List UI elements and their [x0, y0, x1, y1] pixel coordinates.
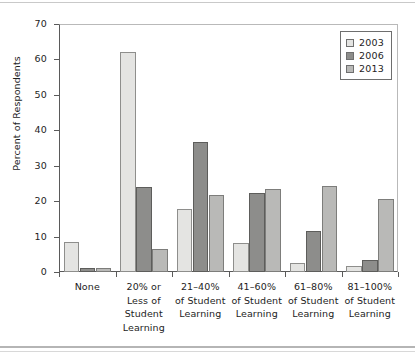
x-axis-label-line: of Student — [168, 294, 233, 308]
bottom-divider-rule — [0, 346, 415, 348]
x-axis-label-line: 20% or — [112, 280, 177, 294]
y-axis-tick-label: 20 — [35, 194, 48, 207]
x-axis-tick-mark — [229, 272, 230, 277]
bar-2006 — [193, 142, 209, 272]
x-axis-label-line: of Student — [281, 294, 346, 308]
x-axis-tick-mark — [398, 272, 399, 277]
bar-group — [285, 24, 342, 272]
legend-item: 2003 — [346, 36, 384, 49]
legend-swatch-icon — [346, 39, 354, 47]
x-axis-label-line: Learning — [225, 307, 290, 321]
legend-item-label: 2013 — [359, 63, 384, 74]
legend-item: 2006 — [346, 49, 384, 62]
x-axis-category-label: None — [55, 280, 120, 294]
legend-item-label: 2006 — [359, 50, 384, 61]
bar-2003 — [177, 209, 193, 272]
x-axis-label-line: Less of — [112, 294, 177, 308]
legend-swatch-icon — [346, 52, 354, 60]
y-axis-title: Percent of Respondents — [11, 14, 22, 214]
x-axis-tick-mark — [285, 272, 286, 277]
x-axis-label-line: 61–80% — [281, 280, 346, 294]
x-axis-ticks — [59, 272, 398, 278]
bar-2003 — [290, 263, 306, 272]
x-axis-label-line: Learning — [281, 307, 346, 321]
y-axis-tick-label: 30 — [35, 159, 48, 172]
x-axis-label-line: Student — [112, 307, 177, 321]
x-axis-label-line: Learning — [112, 321, 177, 335]
x-axis-category-label: 41–60%of StudentLearning — [225, 280, 290, 321]
x-axis-label-line: 81–100% — [338, 280, 403, 294]
legend-item-label: 2003 — [359, 37, 384, 48]
x-axis-label-line: Learning — [338, 307, 403, 321]
bottom-divider-rule-thin — [0, 351, 415, 352]
x-axis-label-line: of Student — [225, 294, 290, 308]
chart-legend: 200320062013 — [340, 31, 392, 80]
figure-canvas: 010203040506070 Percent of Respondents N… — [0, 0, 415, 354]
bar-2003 — [120, 52, 136, 272]
bar-2006 — [249, 193, 265, 272]
bar-2006 — [136, 187, 152, 272]
y-axis-tick-label: 0 — [41, 265, 47, 278]
bar-2013 — [152, 249, 168, 272]
x-axis-tick-mark — [59, 272, 60, 277]
y-axis-tick-label: 10 — [35, 230, 48, 243]
x-axis-category-label: 20% orLess ofStudentLearning — [112, 280, 177, 334]
x-axis-label-line: 41–60% — [225, 280, 290, 294]
bar-2013 — [378, 199, 394, 272]
y-axis-tick-label: 70 — [35, 17, 48, 30]
y-axis-tick-label: 50 — [35, 88, 48, 101]
y-axis-tick-label: 60 — [35, 52, 48, 65]
x-axis-label-line: Learning — [168, 307, 233, 321]
x-axis-labels: None20% orLess ofStudentLearning21–40%of… — [59, 280, 398, 346]
bar-2013 — [265, 189, 281, 272]
x-axis-label-line: 21–40% — [168, 280, 233, 294]
bar-2006 — [362, 260, 378, 272]
bar-2003 — [233, 243, 249, 272]
y-axis-tick-label: 40 — [35, 123, 48, 136]
bar-2013 — [322, 186, 338, 272]
bar-group — [172, 24, 229, 272]
bar-2013 — [209, 195, 225, 272]
bar-2006 — [306, 231, 322, 272]
x-axis-label-line: of Student — [338, 294, 403, 308]
top-divider-rule — [0, 2, 415, 3]
x-axis-tick-mark — [342, 272, 343, 277]
bar-group — [116, 24, 173, 272]
y-axis: 010203040506070 — [0, 0, 59, 354]
x-axis-category-label: 61–80%of StudentLearning — [281, 280, 346, 321]
x-axis-tick-mark — [116, 272, 117, 277]
bar-2003 — [64, 242, 80, 272]
x-axis-tick-mark — [172, 272, 173, 277]
x-axis-label-line: None — [55, 280, 120, 294]
legend-item: 2013 — [346, 62, 384, 75]
bar-group — [59, 24, 116, 272]
x-axis-category-label: 21–40%of StudentLearning — [168, 280, 233, 321]
bar-group — [229, 24, 286, 272]
legend-swatch-icon — [346, 65, 354, 73]
x-axis-category-label: 81–100%of StudentLearning — [338, 280, 403, 321]
